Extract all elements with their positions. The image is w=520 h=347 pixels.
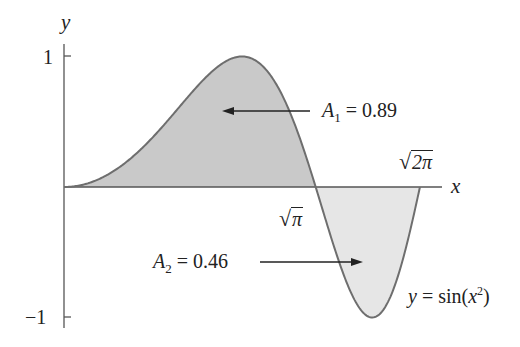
curve-label: y = sin(x2) — [408, 285, 490, 306]
region-a2-label: A2 = 0.46 — [153, 251, 228, 275]
region-a1-fill — [64, 57, 316, 188]
x-mark-sqrt-2pi: √2π — [399, 150, 433, 173]
sqrt-pi-radicand: π — [291, 207, 303, 229]
region-a1-label: A1 = 0.89 — [322, 100, 397, 124]
x-axis-label: x — [451, 176, 460, 197]
y-tick-label-1: 1 — [43, 47, 53, 67]
x-mark-sqrt-pi: √π — [279, 207, 303, 230]
y-tick-label-neg1: −1 — [25, 307, 46, 327]
sqrt-2pi-radicand: 2π — [411, 150, 433, 172]
y-axis-label: y — [61, 12, 70, 33]
